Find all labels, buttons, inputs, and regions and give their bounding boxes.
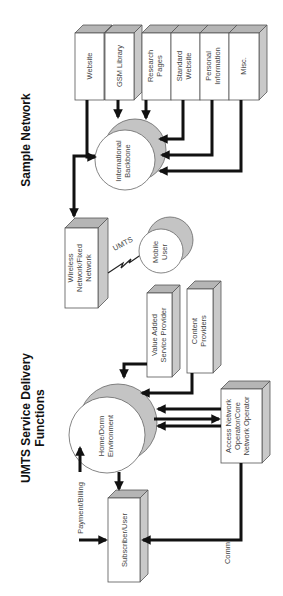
svg-text:Pages: Pages [155,55,164,77]
home-dorm-environment-node: Home/Dorm Environment [69,384,157,473]
svg-text:International: International [114,140,123,182]
svg-text:Research: Research [146,50,155,82]
source-box-misc: Misc. [229,25,267,100]
svg-text:Providers: Providers [199,315,208,347]
svg-text:Wireless: Wireless [66,253,75,282]
svg-text:GSM Library: GSM Library [115,45,124,87]
content-providers-box: Content Providers [187,281,221,373]
svg-text:Subscriber/User: Subscriber/User [120,513,129,567]
svg-text:Network: Network [84,254,93,282]
svg-text:Network/Fixed: Network/Fixed [75,244,84,292]
svg-text:Network Operator: Network Operator [242,396,251,456]
svg-text:Operator/Core: Operator/Core [233,402,242,450]
wireless-network-box: Wireless Network/Fixed Network [65,218,108,308]
svg-text:UMTS Service Delivery: UMTS Service Delivery [19,353,33,483]
svg-text:Content: Content [190,317,199,344]
svg-text:Misc.: Misc. [239,57,248,75]
svg-text:Environment: Environment [106,414,115,457]
source-box-gsm-library: GSM Library [105,25,142,100]
comm-label: Comm [223,542,232,564]
payment-billing-label: Payment/Billing [76,482,85,534]
umts-link-label: UMTS [111,235,134,253]
mobile-user-node: Mobile User [139,217,193,273]
value-added-service-provider-box: Value Added Service Provider [147,285,180,377]
svg-text:Value Added: Value Added [150,314,159,356]
svg-text:Functions: Functions [33,389,47,447]
title-umts-service-delivery: UMTS Service Delivery Functions [19,353,47,483]
svg-text:Information: Information [213,47,222,85]
access-network-operator-box: Access Network Operator/Core Network Ope… [221,381,270,463]
svg-text:Mobile: Mobile [151,241,160,263]
svg-text:Service Provider: Service Provider [159,307,168,363]
svg-text:Backbone: Backbone [123,144,132,177]
svg-text:Access Network: Access Network [224,399,233,453]
svg-text:Home/Dorm: Home/Dorm [97,416,106,456]
svg-text:Website: Website [184,53,193,80]
international-backbone-node: International Backbone [95,119,166,190]
diagram-canvas: Sample Network UMTS Service Delivery Fun… [0,0,283,596]
svg-text:Personal: Personal [204,51,213,81]
title-sample-network: Sample Network [19,93,33,187]
svg-text:User: User [160,244,169,260]
svg-text:Website: Website [85,53,94,80]
subscriber-user-box: Subscriber/User [108,490,148,582]
svg-text:Standard: Standard [175,51,184,81]
